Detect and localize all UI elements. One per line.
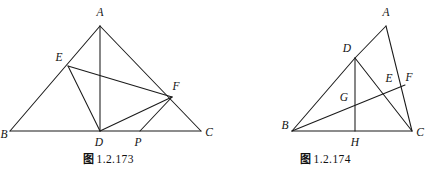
figure-left-vertex-label-d: D [94, 136, 104, 148]
figure-left: ABCDEFP [0, 6, 213, 148]
figure-right-vertex-label-g: G [340, 91, 349, 103]
figure-right-segment-da [355, 26, 386, 58]
figure-left-vertex-label-a: A [95, 6, 104, 18]
figure-left-vertex-label-p: P [133, 136, 141, 148]
figure-left-segment-fp [140, 97, 172, 131]
figure-right-caption-cjk: 图 [300, 153, 313, 166]
figure-right-vertex-label-h: H [350, 136, 360, 148]
figure-left-segment-ba [10, 26, 100, 131]
figure-right: ABCDEFGH [281, 6, 424, 148]
figure-right-vertex-label-d: D [342, 42, 352, 54]
figure-right-segment-bf [292, 85, 405, 131]
figure-left-vertex-label-b: B [0, 128, 7, 140]
figure-left-segment-ed [68, 66, 100, 131]
figure-right-vertex-label-c: C [416, 126, 424, 138]
figure-left-caption-cjk: 图 [83, 153, 96, 166]
figure-left-caption-number: 1.2.173 [97, 153, 134, 165]
figure-right-vertex-label-e: E [384, 72, 392, 84]
figure-left-vertex-label-f: F [171, 80, 180, 92]
figure-right-vertex-label-b: B [281, 119, 288, 131]
figure-left-segment-ef [68, 66, 172, 97]
figure-right-caption: 图1.2.174 [217, 150, 434, 166]
figure-left-vertex-label-e: E [54, 51, 62, 63]
figure-right-caption-number: 1.2.174 [314, 153, 351, 165]
figure-left-vertex-label-c: C [205, 126, 213, 138]
figure-right-vertex-label-a: A [381, 6, 390, 18]
figure-left-segment-ac [100, 26, 201, 131]
figure-right-vertex-label-f: F [404, 71, 413, 83]
figure-left-caption: 图1.2.173 [0, 150, 217, 166]
figures-canvas: ABCDEFP ABCDEFGH 图1.2.173 图1.2.174 [0, 0, 434, 176]
figure-left-segment-df [100, 97, 172, 131]
